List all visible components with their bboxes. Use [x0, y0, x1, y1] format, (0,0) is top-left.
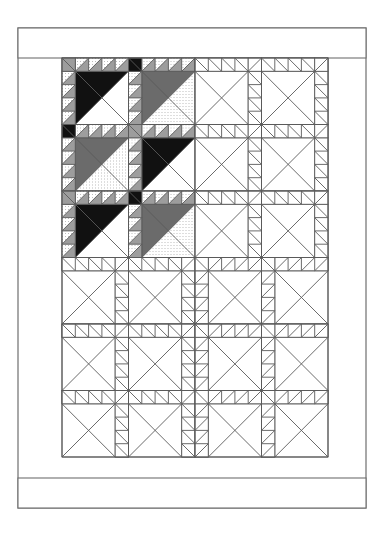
- quilt-block: [195, 324, 262, 391]
- quilt-block: [195, 258, 262, 325]
- top-border: [18, 28, 366, 58]
- bottom-border: [18, 478, 366, 508]
- quilt-diagram: [0, 0, 385, 537]
- quilt-block: [62, 258, 129, 325]
- quilt-block: [262, 191, 329, 258]
- quilt-block: [62, 58, 129, 125]
- quilt-block: [129, 125, 196, 192]
- quilt-block: [262, 258, 329, 325]
- quilt-block: [195, 58, 262, 125]
- quilt-block: [262, 58, 329, 125]
- quilt-block: [129, 391, 196, 458]
- quilt-svg-canvas: [0, 0, 385, 537]
- quilt-block: [62, 324, 129, 391]
- quilt-block: [262, 125, 329, 192]
- quilt-block: [129, 191, 196, 258]
- quilt-block: [129, 58, 196, 125]
- quilt-block: [195, 391, 262, 458]
- quilt-block: [195, 125, 262, 192]
- quilt-block: [195, 191, 262, 258]
- quilt-block: [129, 324, 196, 391]
- quilt-block: [129, 258, 196, 325]
- quilt-block: [62, 191, 129, 258]
- quilt-block: [62, 391, 129, 458]
- quilt-block: [262, 391, 329, 458]
- quilt-block: [62, 125, 129, 192]
- quilt-block: [262, 324, 329, 391]
